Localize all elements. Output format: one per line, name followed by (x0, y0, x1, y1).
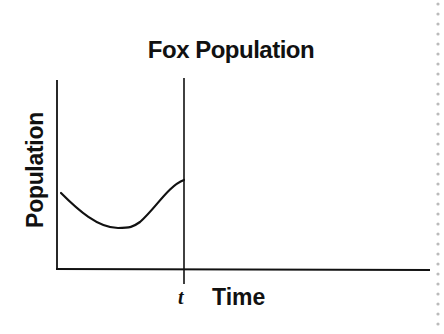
chart-plot (0, 0, 444, 334)
population-curve (61, 180, 184, 228)
x-axis (56, 269, 430, 270)
dotted-border (436, 2, 439, 325)
